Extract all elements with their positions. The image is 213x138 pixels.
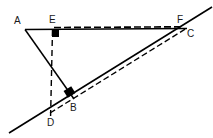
segment-D-C-dashed xyxy=(50,28,187,113)
vertex-label-C: C xyxy=(187,29,194,39)
vertex-label-E: E xyxy=(49,15,56,25)
vertex-label-B: B xyxy=(70,103,77,113)
vertex-label-F: F xyxy=(177,15,183,25)
line-D-C-extended xyxy=(9,7,212,133)
right-angle-at-E xyxy=(52,29,59,37)
segment-A-B xyxy=(25,30,74,100)
segment-A-F xyxy=(25,29,187,30)
segment-E-F-dashed xyxy=(54,27,184,28)
geometry-figure: A E F C B D xyxy=(0,0,213,138)
vertex-label-D: D xyxy=(47,118,54,128)
vertex-label-A: A xyxy=(14,16,21,26)
